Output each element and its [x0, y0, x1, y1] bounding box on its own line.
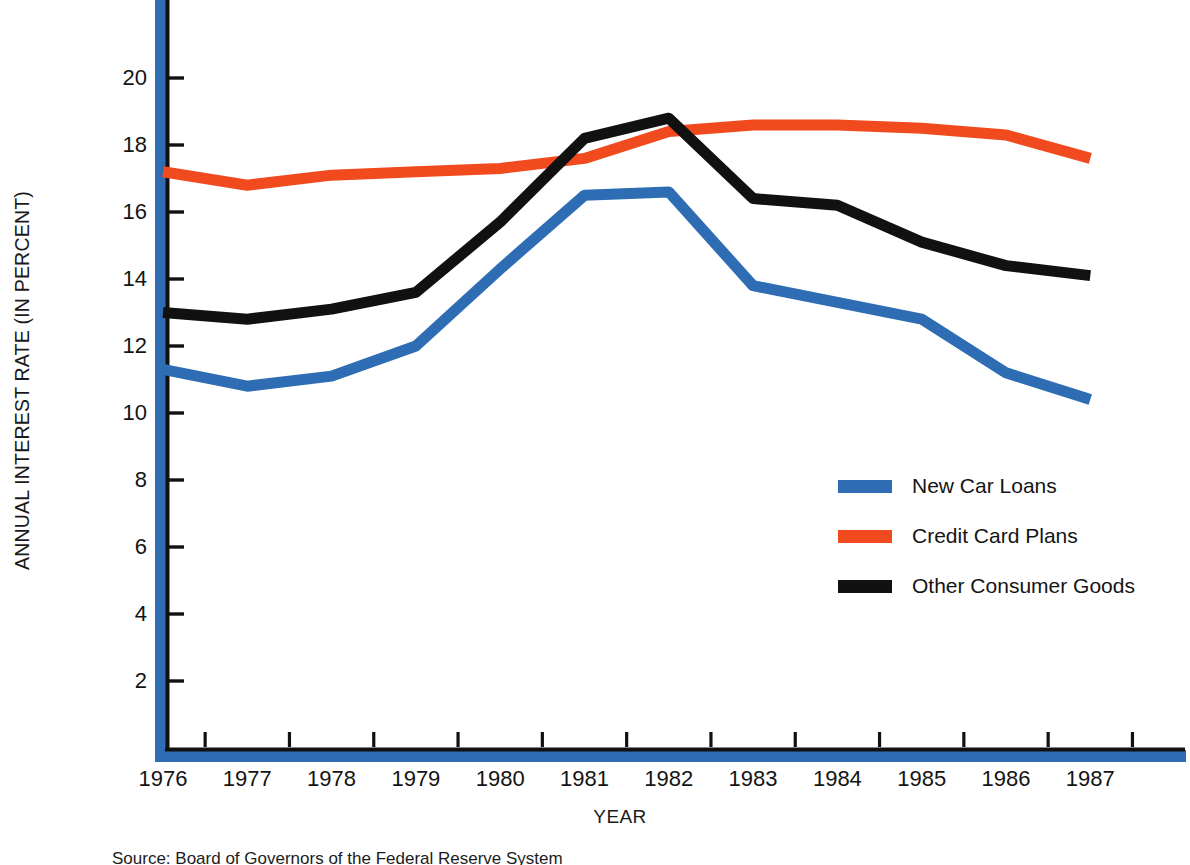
y-tick-label: 2 [101, 670, 147, 692]
legend-swatch-icon [838, 580, 892, 593]
x-tick-label: 1984 [794, 768, 880, 790]
x-tick-label: 1985 [879, 768, 965, 790]
x-tick-label: 1978 [289, 768, 375, 790]
plot-area: 2468101214161820 19761977197819791980198… [0, 0, 1190, 865]
y-tick-label: 18 [101, 134, 147, 156]
x-tick-label: 1979 [373, 768, 459, 790]
legend-item-label: Credit Card Plans [912, 524, 1078, 548]
x-tick-label: 1986 [963, 768, 1049, 790]
series-lines [163, 118, 1090, 399]
legend-item: Other Consumer Goods [838, 561, 1168, 611]
x-tick-label: 1976 [120, 768, 206, 790]
legend-item-label: New Car Loans [912, 474, 1057, 498]
y-tick-label: 16 [101, 201, 147, 223]
source-note: Source: Board of Governors of the Federa… [112, 849, 563, 865]
chart-page: ANNUAL INTEREST RATE (IN PERCENT) 246810… [0, 0, 1190, 865]
chart-legend: New Car LoansCredit Card PlansOther Cons… [838, 461, 1168, 611]
legend-item: Credit Card Plans [838, 511, 1168, 561]
x-tick-label: 1982 [626, 768, 712, 790]
x-tick-label: 1981 [542, 768, 628, 790]
x-tick-label: 1987 [1047, 768, 1133, 790]
legend-swatch-icon [838, 530, 892, 543]
x-axis-title: YEAR [560, 806, 680, 828]
series-line-new-car-loans [163, 192, 1090, 400]
legend-item: New Car Loans [838, 461, 1168, 511]
y-tick-label: 14 [101, 268, 147, 290]
y-tick-label: 8 [101, 469, 147, 491]
y-tick-label: 10 [101, 402, 147, 424]
chart-canvas [0, 0, 1190, 865]
series-line-credit-card-plans [163, 125, 1090, 185]
y-tick-label: 12 [101, 335, 147, 357]
legend-swatch-icon [838, 480, 892, 493]
y-tick-label: 6 [101, 536, 147, 558]
legend-item-label: Other Consumer Goods [912, 574, 1135, 598]
y-tick-label: 20 [101, 67, 147, 89]
y-tick-label: 4 [101, 603, 147, 625]
x-tick-label: 1983 [710, 768, 796, 790]
x-tick-label: 1980 [457, 768, 543, 790]
x-axis-accent-bar [155, 750, 1186, 762]
x-tick-label: 1977 [204, 768, 290, 790]
